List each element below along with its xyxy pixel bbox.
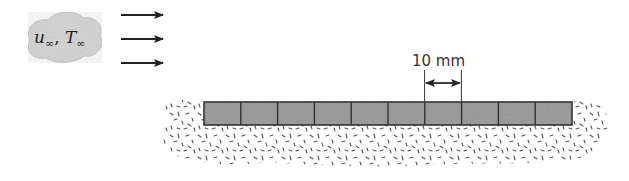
free-stream-label: u∞, T∞ [34,27,85,50]
dimension-label: 10 mm [412,52,465,70]
separator: , [54,27,65,47]
temperature-symbol: T [65,27,76,47]
temperature-subscript: ∞ [76,37,85,50]
flow-arrows [121,15,163,63]
heater-strip [204,102,572,125]
velocity-symbol: u [34,27,45,47]
velocity-subscript: ∞ [45,37,54,50]
dimension-marker [425,70,462,102]
diagram-canvas [0,0,629,181]
